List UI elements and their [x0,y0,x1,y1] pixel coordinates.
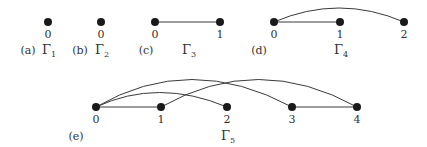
graph-3-title: Γ3 [182,42,196,59]
graph-1-title: Γ1 [42,42,56,59]
graph-4-node-1-label: 1 [337,28,344,41]
graph-5-part-label: (e) [68,130,83,143]
graph-gamma-3: 0 1 (c) Γ3 [139,18,224,59]
graph-4-node-1 [336,18,344,26]
graph-5-node-3 [288,103,296,111]
graph-diagram: 0 (a) Γ1 0 (b) Γ2 0 1 (c) Γ3 [0,0,427,147]
graph-4-title: Γ4 [334,42,348,59]
graph-5-edge-0-3 [96,80,292,108]
graph-1-node-0 [44,18,52,26]
graph-5-node-4 [353,103,361,111]
graph-1-part-label: (a) [20,44,35,57]
graph-3-node-1-label: 1 [217,28,224,41]
graph-4-part-label: (d) [251,44,267,57]
graph-4-node-0-label: 0 [271,28,278,41]
graph-2-title: Γ2 [95,42,109,59]
graph-3-node-0-label: 0 [152,28,159,41]
graph-4-node-2 [400,18,408,26]
graph-4-node-2-label: 2 [401,28,408,41]
graph-2-node-0 [97,18,105,26]
graph-5-node-0-label: 0 [93,113,100,126]
graph-gamma-2: 0 (b) Γ2 [72,18,109,59]
graph-gamma-4: 0 1 2 (d) Γ4 [251,8,408,59]
graph-gamma-1: 0 (a) Γ1 [20,18,56,59]
graph-5-edge-1-4 [161,80,357,108]
graph-5-node-2 [223,103,231,111]
graph-5-node-1 [157,103,165,111]
graph-5-node-4-label: 4 [354,113,361,126]
graph-2-part-label: (b) [72,44,88,57]
graph-1-node-0-label: 0 [45,28,52,41]
graph-4-node-0 [270,18,278,26]
graph-3-node-1 [216,18,224,26]
graph-5-node-3-label: 3 [289,113,296,126]
graph-5-node-1-label: 1 [158,113,165,126]
graph-figure: 0 (a) Γ1 0 (b) Γ2 0 1 (c) Γ3 [0,0,427,147]
graph-5-node-0 [92,103,100,111]
graph-gamma-5: 0 1 2 3 4 (e) Γ5 [68,80,361,146]
graph-3-node-0 [151,18,159,26]
graph-3-part-label: (c) [139,44,154,57]
graph-5-node-2-label: 2 [224,113,231,126]
graph-5-title: Γ5 [221,128,235,145]
graph-2-node-0-label: 0 [98,28,105,41]
